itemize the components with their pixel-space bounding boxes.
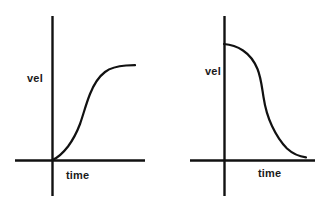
y-axis-label-vel: vel xyxy=(205,66,221,77)
chart-panel-increasing-velocity: vel time xyxy=(0,0,165,207)
figure-canvas: vel time vel time xyxy=(0,0,331,207)
x-axis-label-time: time xyxy=(258,168,281,179)
velocity-curve-increasing xyxy=(53,65,136,160)
x-axis-label-time: time xyxy=(66,170,89,181)
plot-area-decreasing-velocity xyxy=(165,0,331,207)
y-axis-label-vel: vel xyxy=(27,73,43,84)
velocity-curve-decreasing xyxy=(224,44,306,157)
chart-panel-decreasing-velocity: vel time xyxy=(165,0,331,207)
